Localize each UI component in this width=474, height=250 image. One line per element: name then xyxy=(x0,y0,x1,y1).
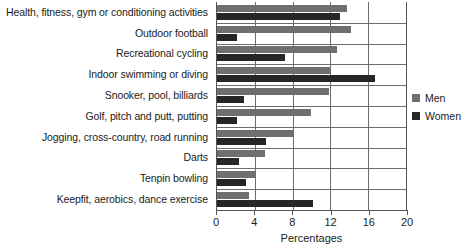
bar-men xyxy=(217,46,337,53)
x-axis-title: Percentages xyxy=(216,232,407,244)
x-tick-label: 0 xyxy=(213,216,219,228)
bar-row xyxy=(217,127,406,148)
x-tick-label: 4 xyxy=(251,216,257,228)
bar-men xyxy=(217,150,265,157)
x-tick xyxy=(216,210,217,215)
bar-rows xyxy=(217,2,406,210)
bar-row xyxy=(217,189,406,210)
category-label: Snooker, pool, billiards xyxy=(0,85,212,106)
plot-area xyxy=(216,2,407,210)
legend-swatch-icon xyxy=(412,94,420,102)
category-label: Jogging, cross-country, road running xyxy=(0,127,212,148)
legend-item-women[interactable]: Women xyxy=(412,110,461,122)
bar-women xyxy=(217,200,313,207)
bar-row xyxy=(217,23,406,44)
legend-item-men[interactable]: Men xyxy=(412,92,461,104)
x-tick xyxy=(369,210,370,215)
x-tick-label: 20 xyxy=(401,216,413,228)
x-tick xyxy=(407,210,408,215)
bar-row xyxy=(217,168,406,189)
bar-women xyxy=(217,34,237,41)
category-label: Darts xyxy=(0,148,212,169)
x-tick xyxy=(292,210,293,215)
category-label-column: Health, fitness, gym or conditioning act… xyxy=(0,2,212,210)
bar-women xyxy=(217,96,244,103)
bar-men xyxy=(217,130,294,137)
category-label: Recreational cycling xyxy=(0,44,212,65)
legend-swatch-icon xyxy=(412,112,420,120)
bar-women xyxy=(217,75,375,82)
bar-row xyxy=(217,44,406,65)
x-tick xyxy=(254,210,255,215)
x-tick-label: 8 xyxy=(289,216,295,228)
category-label: Outdoor football xyxy=(0,23,212,44)
legend-label: Men xyxy=(425,92,445,104)
bar-women xyxy=(217,13,340,20)
category-label: Health, fitness, gym or conditioning act… xyxy=(0,2,212,23)
x-axis-tick-labels: 048121620 xyxy=(216,216,407,232)
category-label: Golf, pitch and putt, putting xyxy=(0,106,212,127)
bar-women xyxy=(217,179,246,186)
bar-men xyxy=(217,88,329,95)
bar-men xyxy=(217,171,256,178)
bar-row xyxy=(217,64,406,85)
x-tick xyxy=(331,210,332,215)
bar-women xyxy=(217,54,285,61)
bar-row xyxy=(217,2,406,23)
bar-row xyxy=(217,148,406,169)
bar-women xyxy=(217,158,239,165)
x-tick-label: 16 xyxy=(363,216,375,228)
legend-label: Women xyxy=(425,110,461,122)
bar-men xyxy=(217,192,249,199)
bar-row xyxy=(217,85,406,106)
category-label: Keepfit, aerobics, dance exercise xyxy=(0,189,212,210)
bar-men xyxy=(217,26,351,33)
bar-men xyxy=(217,67,330,74)
category-label: Tenpin bowling xyxy=(0,168,212,189)
bar-women xyxy=(217,117,237,124)
bar-women xyxy=(217,138,266,145)
bar-chart: Health, fitness, gym or conditioning act… xyxy=(0,0,474,250)
legend: MenWomen xyxy=(412,92,461,122)
bar-men xyxy=(217,5,347,12)
category-label: Indoor swimming or diving xyxy=(0,64,212,85)
x-tick-label: 12 xyxy=(324,216,336,228)
bar-men xyxy=(217,109,311,116)
bar-row xyxy=(217,106,406,127)
